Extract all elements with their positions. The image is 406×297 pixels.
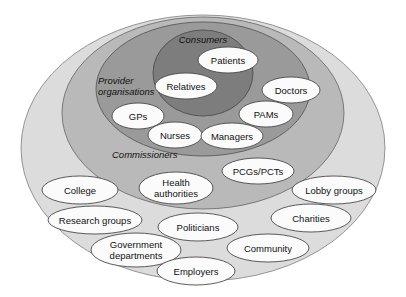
node-patients[interactable]: Patients <box>198 47 258 73</box>
node-label-research-groups: Research groups <box>59 215 132 226</box>
node-label-politicians: Politicians <box>177 222 220 233</box>
ring-label-consumers: Consumers <box>179 34 228 45</box>
ring-label-commissioners: Commissioners <box>112 149 178 160</box>
diagram-canvas: CommissionersProviderorganisationsConsum… <box>0 0 406 297</box>
node-label-college: College <box>64 185 96 196</box>
node-label-managers: Managers <box>211 131 253 142</box>
node-pcgs-pcts[interactable]: PCGs/PCTs <box>222 158 294 184</box>
node-label-government-departments: Governmentdepartments <box>110 239 163 261</box>
node-label-gps: GPs <box>129 111 148 122</box>
node-label-employers: Employers <box>174 266 219 277</box>
node-relatives[interactable]: Relatives <box>155 73 217 99</box>
node-politicians[interactable]: Politicians <box>158 213 238 241</box>
node-college[interactable]: College <box>42 176 118 204</box>
node-doctors[interactable]: Doctors <box>262 77 320 103</box>
node-label-community: Community <box>244 243 292 254</box>
node-label-lobby-groups: Lobby groups <box>305 185 363 196</box>
node-label-pcgs-pcts: PCGs/PCTs <box>233 166 284 177</box>
node-nurses[interactable]: Nurses <box>148 122 202 148</box>
node-pams[interactable]: PAMs <box>239 101 293 127</box>
node-community[interactable]: Community <box>227 234 309 262</box>
stakeholder-diagram: CommissionersProviderorganisationsConsum… <box>0 0 406 297</box>
node-label-relatives: Relatives <box>166 81 205 92</box>
node-label-doctors: Doctors <box>275 85 308 96</box>
node-lobby-groups[interactable]: Lobby groups <box>292 176 376 204</box>
node-charities[interactable]: Charities <box>271 204 351 232</box>
node-health-authorities[interactable]: Healthauthorities <box>139 172 213 204</box>
node-gps[interactable]: GPs <box>112 103 164 129</box>
node-employers[interactable]: Employers <box>157 257 235 285</box>
node-label-charities: Charities <box>292 213 330 224</box>
node-label-nurses: Nurses <box>160 130 190 141</box>
node-label-patients: Patients <box>211 55 246 66</box>
node-managers[interactable]: Managers <box>201 123 263 149</box>
node-research-groups[interactable]: Research groups <box>48 206 142 234</box>
node-label-pams: PAMs <box>254 109 279 120</box>
